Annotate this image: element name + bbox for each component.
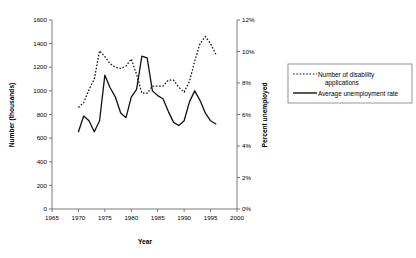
left-tick-label: 200	[37, 182, 48, 189]
left-tick-label: 0	[44, 205, 48, 212]
legend-label-disability-applications-line2: applications	[325, 79, 359, 87]
left-tick-label: 600	[37, 134, 48, 141]
right-tick-label: 12%	[242, 16, 255, 23]
right-tick-label: 2%	[242, 174, 251, 181]
left-tick-label: 400	[37, 158, 48, 165]
right-axis-ticks: 0%2%4%6%8%10%12%	[237, 16, 255, 212]
chart-legend: Number of disability applications Averag…	[288, 64, 412, 103]
line-chart-svg: 02004006008001000120014001600 0%2%4%6%8%…	[0, 0, 416, 258]
left-tick-label: 800	[37, 111, 48, 118]
series-line-average-unemployment-rate	[78, 56, 215, 132]
left-axis-ticks: 02004006008001000120014001600	[33, 16, 52, 212]
chart-figure: 02004006008001000120014001600 0%2%4%6%8%…	[0, 0, 416, 258]
x-tick-label: 1990	[177, 214, 191, 221]
x-tick-label: 1975	[98, 214, 112, 221]
right-tick-label: 4%	[242, 142, 251, 149]
right-tick-label: 8%	[242, 79, 251, 86]
left-tick-label: 1600	[33, 16, 47, 23]
x-tick-label: 2000	[230, 214, 244, 221]
right-tick-label: 0%	[242, 205, 251, 212]
right-tick-label: 10%	[242, 48, 255, 55]
bottom-axis-ticks: 19651970197519801985199019952000	[45, 209, 244, 221]
series-group	[78, 37, 215, 132]
y-axis-title: Number (thousands)	[8, 83, 16, 147]
right-tick-label: 6%	[242, 111, 251, 118]
left-tick-label: 1000	[33, 87, 47, 94]
x-tick-label: 1995	[204, 214, 218, 221]
axes-group	[52, 20, 237, 209]
series-line-number-of-disability-applications	[78, 37, 215, 108]
y2-axis-title: Percent unemployed	[261, 83, 269, 148]
x-tick-label: 1965	[45, 214, 59, 221]
x-tick-label: 1970	[72, 214, 86, 221]
x-axis-title: Year	[138, 238, 152, 245]
legend-label-disability-applications-line1: Number of disability	[318, 71, 375, 79]
left-tick-label: 1200	[33, 63, 47, 70]
left-tick-label: 1400	[33, 40, 47, 47]
x-tick-label: 1985	[151, 214, 165, 221]
x-tick-label: 1980	[124, 214, 138, 221]
legend-label-unemployment-rate: Average unemployment rate	[318, 90, 399, 98]
